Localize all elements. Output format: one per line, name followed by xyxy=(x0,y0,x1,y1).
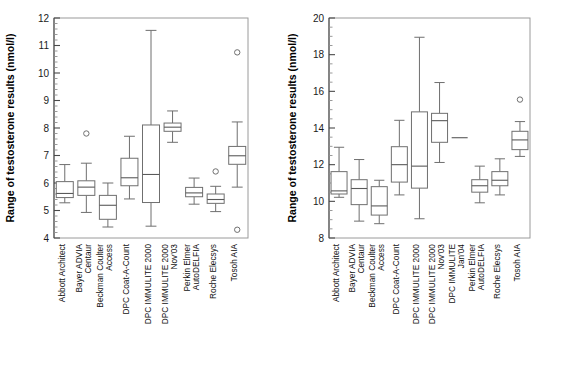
x-category-label: Abbott Architect xyxy=(331,243,341,302)
boxplot-panel-left: 456789101112Range of testosterone result… xyxy=(0,0,282,365)
y-tick-label: 16 xyxy=(313,86,325,97)
boxplot-5 xyxy=(411,37,427,219)
y-tick-label: 8 xyxy=(43,123,49,134)
box-iqr xyxy=(56,182,73,198)
x-category-label: Nov'03 xyxy=(169,244,179,270)
boxplot-5 xyxy=(143,30,160,226)
outlier-marker xyxy=(213,169,218,174)
box-iqr xyxy=(351,180,367,205)
boxplot-9 xyxy=(229,50,246,233)
boxplot-8 xyxy=(207,169,224,212)
y-tick-label: 9 xyxy=(43,95,49,106)
y-tick-label: 5 xyxy=(43,205,49,216)
boxplot-10 xyxy=(512,97,528,157)
y-tick-label: 12 xyxy=(38,13,50,24)
x-category-label: Roche Elecsys xyxy=(208,244,218,299)
y-tick-label: 20 xyxy=(313,13,325,24)
y-tick-label: 14 xyxy=(313,123,325,134)
y-axis-label: Range of testosterone results (nmol/l) xyxy=(4,33,16,222)
boxplot-panel-right: 8101214161820Range of testosterone resul… xyxy=(282,0,564,365)
y-tick-label: 18 xyxy=(313,49,325,60)
y-tick-label: 12 xyxy=(313,159,325,170)
box-iqr xyxy=(371,187,387,215)
outlier-marker xyxy=(235,50,240,55)
boxplot-3 xyxy=(371,180,387,223)
x-category-label: Abbott Architect xyxy=(57,243,67,302)
y-tick-label: 10 xyxy=(313,196,325,207)
boxplot-2 xyxy=(78,131,95,213)
boxplot-4 xyxy=(391,120,407,195)
boxplot-9 xyxy=(492,159,508,195)
boxplot-3 xyxy=(99,183,116,227)
x-category-label: DPC Coat-A-Count xyxy=(391,243,401,314)
box-iqr xyxy=(121,158,138,186)
x-category-label: Tosoh AIA xyxy=(512,244,522,282)
boxplot-8 xyxy=(472,166,488,203)
box-iqr xyxy=(207,194,224,203)
box-iqr xyxy=(432,113,448,142)
y-tick-label: 11 xyxy=(39,40,50,51)
x-category-label: DPC Coat-A-Count xyxy=(121,243,131,314)
y-tick-label: 10 xyxy=(38,68,50,79)
x-category-label: Centaur xyxy=(83,244,93,274)
y-tick-label: 8 xyxy=(318,233,324,244)
x-category-label: Jan'04 xyxy=(456,244,466,269)
box-iqr xyxy=(492,172,508,186)
boxplot-6 xyxy=(164,111,181,142)
y-tick-label: 6 xyxy=(43,178,49,189)
x-category-label: AutoDELFIA xyxy=(191,244,201,291)
x-category-label: DPC IMMULITE 2000 xyxy=(143,244,153,325)
boxplot-2 xyxy=(351,160,367,222)
boxplot-7 xyxy=(186,178,203,204)
box-iqr xyxy=(186,187,203,196)
x-category-label: Roche Elecsys xyxy=(492,244,502,299)
x-category-label: DPC IMMULITE 2000 xyxy=(411,244,421,325)
boxplot-1 xyxy=(331,147,347,197)
y-axis-label: Range of testosterone results (nmol/l) xyxy=(286,33,298,222)
box-iqr xyxy=(78,181,95,196)
outlier-marker xyxy=(84,131,89,136)
x-category-label: Nov'03 xyxy=(436,244,446,270)
boxplot-6 xyxy=(432,83,448,163)
figure-root: 456789101112Range of testosterone result… xyxy=(0,0,564,365)
boxplot-svg-left: 456789101112Range of testosterone result… xyxy=(0,0,282,365)
x-category-label: Centaur xyxy=(356,244,366,274)
box-iqr xyxy=(99,195,116,219)
box-iqr xyxy=(411,112,427,188)
y-tick-label: 4 xyxy=(43,233,49,244)
x-category-label: Tosoh AIA xyxy=(229,244,239,282)
outlier-marker xyxy=(235,227,240,232)
y-tick-label: 7 xyxy=(43,150,49,161)
x-category-label: Access xyxy=(376,244,386,271)
outlier-marker xyxy=(517,97,522,102)
boxplot-svg-right: 8101214161820Range of testosterone resul… xyxy=(282,0,564,365)
boxplot-1 xyxy=(56,165,73,203)
boxplot-4 xyxy=(121,136,138,199)
box-iqr xyxy=(143,125,160,203)
x-category-label: Access xyxy=(104,244,114,271)
x-category-label: AutoDELFIA xyxy=(476,244,486,291)
